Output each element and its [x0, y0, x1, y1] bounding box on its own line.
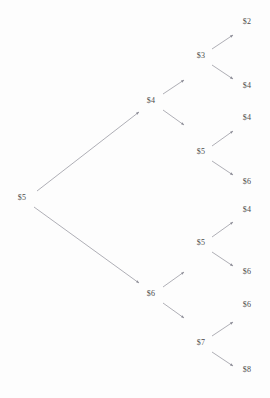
- tree-node-n2c: $5: [197, 239, 205, 247]
- tree-edge-n0-to-n1d: [34, 207, 139, 283]
- tree-node-n1u: $4: [147, 97, 155, 105]
- edge-group: [34, 35, 233, 366]
- tree-edge-n2c-to-l6: [212, 252, 233, 266]
- tree-edge-n1d-to-n2d: [163, 303, 184, 318]
- tree-edge-n2d-to-l7: [212, 322, 233, 336]
- diagram-canvas: $5$4$6$3$5$5$7$2$4$4$6$4$6$6$8: [0, 0, 270, 398]
- tree-node-n2a: $3: [197, 52, 205, 60]
- tree-edge-n2a-to-l1: [212, 35, 233, 49]
- tree-node-l7: $6: [243, 301, 251, 309]
- tree-edge-n1u-to-n2b: [163, 110, 184, 125]
- tree-node-n1d: $6: [147, 290, 155, 298]
- tree-node-n2b: $5: [197, 148, 205, 156]
- tree-node-l3: $4: [243, 114, 251, 122]
- tree-node-n0: $5: [18, 194, 26, 202]
- tree-edges-layer: [0, 0, 270, 398]
- tree-node-l6: $6: [243, 268, 251, 276]
- tree-edge-n2b-to-l4: [212, 161, 233, 175]
- tree-edge-n0-to-n1u: [37, 112, 139, 191]
- tree-node-l4: $6: [243, 178, 251, 186]
- tree-node-l8: $8: [243, 366, 251, 374]
- tree-node-l2: $4: [243, 82, 251, 90]
- tree-edge-n2d-to-l8: [212, 352, 233, 366]
- tree-node-n2d: $7: [197, 339, 205, 347]
- tree-edge-n2a-to-l2: [212, 65, 233, 79]
- tree-node-l1: $2: [243, 18, 251, 26]
- tree-edge-n1d-to-n2c: [163, 272, 184, 287]
- tree-node-l5: $4: [243, 206, 251, 214]
- tree-edge-n2b-to-l3: [212, 131, 233, 146]
- tree-edge-n2c-to-l5: [212, 222, 233, 237]
- tree-edge-n1u-to-n2a: [163, 80, 184, 94]
